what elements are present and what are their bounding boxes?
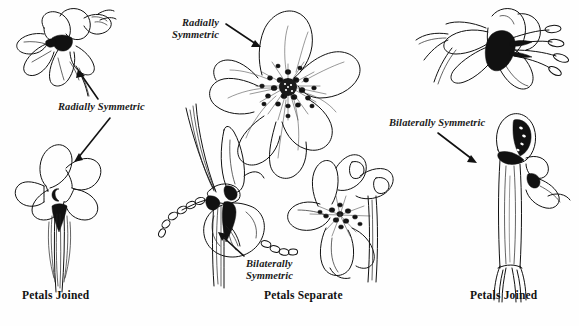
caption-petals-joined-left: Petals Joined [22,289,89,301]
label-text-line2: Symmetric [246,270,293,282]
label-bilaterally-symmetric-center: Bilaterally Symmetric [246,258,293,282]
label-text-line1: Bilaterally [246,258,293,270]
label-text: Bilaterally Symmetric [389,117,485,128]
arrow-bilaterally-symmetric-center [218,232,244,256]
caption-petals-joined-right: Petals Joined [470,289,537,301]
arrow-radially-symmetric-left-upper [76,69,98,99]
label-bilaterally-symmetric-right: Bilaterally Symmetric [389,117,485,129]
arrow-radially-symmetric-left-lower [74,118,110,162]
specimen-lily-side-view [17,9,116,96]
specimen-large-five-petal-separate-flower [210,11,360,178]
label-radially-symmetric-center: Radially Symmetric [172,17,219,41]
specimen-tubular-hooded-flower [494,114,570,302]
arrow-bilaterally-symmetric-right [438,133,477,163]
specimen-tubular-stamen-flower [416,9,570,90]
illustration-plate: Radially Symmetric Radially Symmetric Bi… [0,0,579,326]
specimen-five-petal-joined-flower [15,145,101,292]
arrow-radially-symmetric-center [226,24,261,47]
label-radially-symmetric-left: Radially Symmetric [58,101,145,113]
specimen-lipped-flower [288,155,393,282]
label-text-line1: Radially [172,17,219,29]
label-text-line2: Symmetric [172,29,219,41]
label-text: Radially Symmetric [58,101,145,112]
caption-petals-separate: Petals Separate [264,289,343,301]
